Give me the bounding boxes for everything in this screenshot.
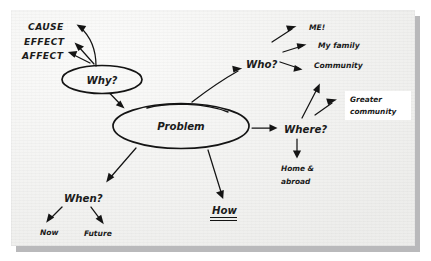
edge-who-to-community <box>280 62 303 72</box>
node-where[interactable]: Where? <box>284 124 327 135</box>
node-why-label: Why? <box>86 75 117 86</box>
edge-problem-to-who <box>192 66 242 102</box>
edge-why-to-affect <box>68 51 90 63</box>
note-greater-community[interactable]: Greater community <box>345 91 411 120</box>
label-greater-community-line2: community <box>350 107 397 116</box>
label-community: Community <box>314 61 364 70</box>
label-abroad: abroad <box>281 177 311 186</box>
branch-who-items: ME! My family Community <box>272 23 364 72</box>
node-when[interactable]: When? <box>64 193 103 204</box>
label-home-and: Home & <box>281 164 315 173</box>
label-greater-community-line1: Greater <box>350 95 383 104</box>
node-when-label: When? <box>64 193 103 204</box>
label-future: Future <box>84 229 112 238</box>
branch-why-items: CAUSE EFFECT AFFECT <box>21 21 96 66</box>
node-who[interactable]: Who? <box>246 59 277 70</box>
edge-problem-to-when <box>106 148 136 182</box>
node-why[interactable]: Why? <box>62 66 142 94</box>
edge-when-to-now <box>46 207 62 223</box>
node-problem-label: Problem <box>157 121 205 132</box>
edge-why-to-problem <box>110 94 125 109</box>
mind-map-drawing: Problem Why? CAUSE EFFECT AFFECT <box>0 0 431 261</box>
edge-who-to-me <box>272 25 297 42</box>
edge-who-to-my-family <box>283 43 307 52</box>
edge-when-to-future <box>91 207 104 224</box>
label-effect: EFFECT <box>24 36 65 47</box>
screenshot-canvas: Problem Why? CAUSE EFFECT AFFECT <box>0 0 431 261</box>
node-problem[interactable]: Problem <box>113 104 249 149</box>
label-affect: AFFECT <box>21 50 64 61</box>
label-my-family: My family <box>318 41 361 50</box>
label-me: ME! <box>309 23 325 32</box>
edge-problem-to-how <box>208 150 224 199</box>
edge-where-to-greater-community <box>315 99 337 115</box>
label-now: Now <box>40 228 60 237</box>
edge-problem-to-where <box>252 124 278 132</box>
node-how-label: How <box>212 205 238 216</box>
node-where-label: Where? <box>284 124 327 135</box>
label-cause: CAUSE <box>28 21 64 32</box>
branch-when-items: Now Future <box>40 207 112 238</box>
branch-where-home-abroad: Home & abroad <box>281 139 315 186</box>
node-how[interactable]: How <box>210 205 238 221</box>
node-who-label: Who? <box>246 59 277 70</box>
